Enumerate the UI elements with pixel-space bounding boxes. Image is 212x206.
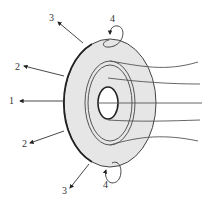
arrow-3-top (58, 22, 83, 43)
label-3-top: 3 (49, 12, 54, 23)
label-4-top: 4 (110, 13, 115, 24)
ring-diagram: 1 2 2 3 3 4 4 (0, 0, 212, 206)
arrow-2-bottom (30, 131, 64, 143)
label-4-bottom: 4 (103, 179, 108, 190)
label-2-bottom: 2 (22, 138, 27, 149)
label-1: 1 (9, 95, 14, 106)
label-3-bottom: 3 (62, 185, 67, 196)
arrow-3-bottom (70, 164, 89, 188)
arrow-2-top (24, 66, 64, 76)
label-2-top: 2 (15, 61, 20, 72)
